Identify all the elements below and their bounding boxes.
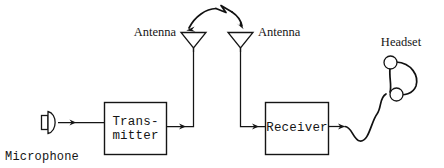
diagram-canvas: Microphone Trans- mitter Antenna [0,0,444,168]
headset-label: Headset [381,35,422,49]
receiver-node: Receiver [266,103,329,155]
headset-earpiece-lower [390,88,403,101]
headset-icon [384,56,417,101]
microphone-icon [42,112,56,134]
receiver-label: Receiver [266,121,328,135]
connector-receiver-headset [329,94,387,141]
radio-block-diagram: Microphone Trans- mitter Antenna [0,0,444,168]
connector-antenna-receiver [241,48,267,130]
radio-wave-arc [186,6,243,32]
transmitter-label-line2: mitter [112,129,158,143]
transmitter-node: Trans- mitter [105,103,167,155]
antenna-transmit-label: Antenna [134,25,177,39]
antenna-receive-label: Antenna [258,25,301,39]
headset-node: Headset [381,35,422,101]
antenna-icon [181,33,206,53]
antenna-transmit-node: Antenna [134,25,206,52]
headset-earpiece-upper [384,56,397,69]
microphone-label: Microphone [5,150,79,164]
antenna-receive-node: Antenna [228,25,301,52]
connector-microphone-transmitter [58,120,104,126]
connector-transmitter-antenna [167,48,194,130]
transmitter-label-line1: Trans- [112,115,158,129]
microphone-node: Microphone [5,112,79,165]
